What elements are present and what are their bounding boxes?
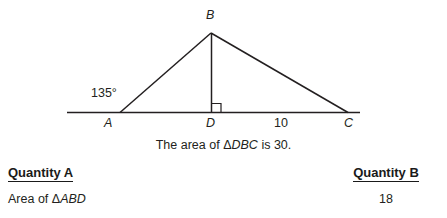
geometry-figure: B A D C 10 135° (0, 0, 447, 160)
quantity-a-column: Quantity A Area of ΔABD (8, 163, 86, 206)
caption-triangle-symbol: Δ (223, 138, 231, 152)
triangle-diagram (0, 0, 447, 160)
quantity-b-column: Quantity B 18 (330, 163, 442, 206)
quantity-b-value: 18 (330, 193, 442, 206)
segment-length-label-dc: 10 (274, 117, 288, 130)
quantity-a-triangle-name: ABD (60, 192, 86, 206)
vertex-label-a: A (104, 117, 112, 130)
angle-measure-label: 135° (91, 87, 117, 100)
caption-prefix: The area of (156, 138, 223, 152)
segment-bc (211, 33, 348, 113)
caption-triangle-name: DBC (232, 138, 258, 152)
quantity-comparison: Quantity A Area of ΔABD Quantity B 18 (0, 163, 447, 218)
vertex-label-b: B (206, 9, 214, 22)
quantity-a-value: Area of ΔABD (8, 193, 86, 206)
right-angle-icon (212, 104, 221, 113)
vertex-label-c: C (344, 117, 353, 130)
quantity-a-heading: Quantity A (8, 166, 73, 182)
quantity-a-value-prefix: Area of (8, 192, 52, 206)
quantity-b-heading: Quantity B (353, 166, 419, 182)
figure-caption: The area of ΔDBC is 30. (0, 139, 447, 152)
vertex-label-d: D (206, 117, 215, 130)
caption-suffix: is 30. (258, 138, 291, 152)
quantity-a-triangle-symbol: Δ (52, 192, 60, 206)
segment-ab (120, 33, 211, 113)
